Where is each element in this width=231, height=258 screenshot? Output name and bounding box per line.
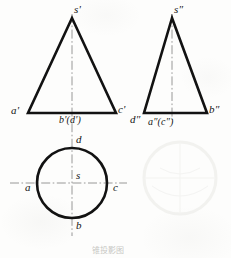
front-view-base-right-label: c' bbox=[118, 104, 126, 115]
side-view-triangle bbox=[144, 18, 207, 113]
side-view-base-right-label: b″ bbox=[209, 104, 219, 115]
side-view-base-center-label: a″(c″) bbox=[148, 117, 174, 127]
figure-caption: 锥投影图 bbox=[92, 247, 124, 255]
front-view-base-left-label: a' bbox=[11, 105, 19, 116]
engineering-drawing-figure: s' a' b'(d') c' s″ d″ a″(c″) b″ d s a c … bbox=[0, 0, 231, 258]
top-view-top-label: d bbox=[76, 134, 82, 145]
top-view-right-label: c bbox=[113, 182, 118, 193]
front-view-base-center-label: b'(d') bbox=[59, 115, 81, 125]
top-view-bottom-label: b bbox=[76, 220, 82, 231]
drawing-canvas bbox=[0, 0, 231, 258]
side-view-base-left-label: d″ bbox=[130, 114, 140, 125]
side-view-apex-label: s″ bbox=[174, 4, 183, 15]
top-view-center-label: s bbox=[76, 170, 80, 181]
front-view-apex-label: s' bbox=[74, 4, 81, 15]
top-view-left-label: a bbox=[25, 182, 31, 193]
ghost-circle-bleedthrough bbox=[144, 142, 216, 214]
